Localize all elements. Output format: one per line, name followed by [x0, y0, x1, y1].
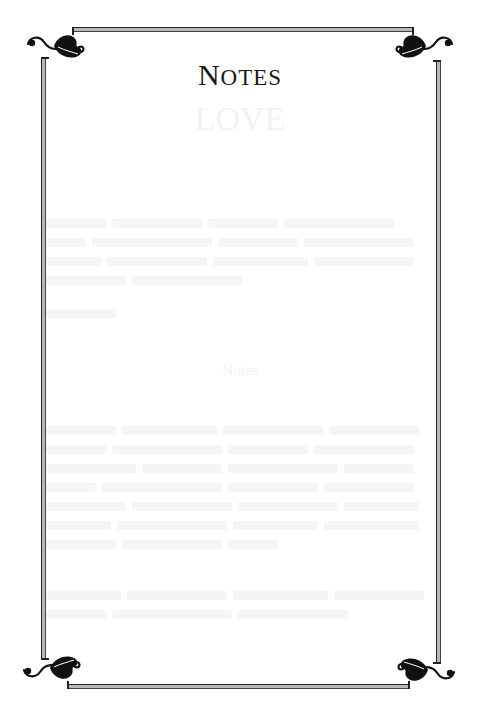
border-left [41, 57, 46, 660]
border-top [72, 27, 414, 32]
bleed-heading-mid: Notes [0, 362, 480, 379]
bleed-caption [46, 303, 438, 322]
title-rest: OTES [221, 65, 283, 90]
border-bottom [67, 684, 410, 689]
notes-page: LOVE Notes NOTES [0, 0, 480, 717]
page-title: NOTES [0, 58, 480, 92]
bleed-paragraph-3 [46, 585, 438, 623]
leaf-flourish-icon [394, 30, 456, 62]
leaf-flourish-icon [396, 654, 458, 686]
bleed-paragraph-1 [46, 213, 438, 289]
leaf-flourish-icon [20, 652, 82, 684]
leaf-flourish-icon [24, 30, 86, 62]
bleed-heading-top: LOVE [0, 100, 480, 138]
title-initial: N [198, 58, 221, 91]
border-right [436, 60, 441, 664]
bleed-paragraph-2 [46, 420, 438, 553]
